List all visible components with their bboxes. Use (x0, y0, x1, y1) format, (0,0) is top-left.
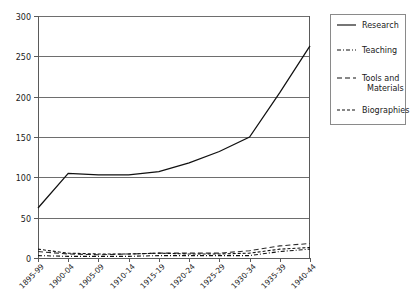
legend: ResearchTeachingTools andMaterialsBiogra… (331, 15, 410, 125)
x-tick-label-2: 1905-09 (77, 262, 106, 291)
y-tick-label-150: 150 (16, 134, 31, 143)
y-tick-label-100: 100 (16, 174, 31, 183)
x-axis-ticks: 1895-991900-041905-091910-141915-191920-… (17, 258, 318, 291)
legend-label-biographies: Biographies (362, 106, 409, 115)
y-tick-label-300: 300 (16, 13, 31, 22)
x-tick-label-6: 1925-29 (198, 262, 227, 291)
x-tick-label-0: 1895-99 (17, 262, 46, 291)
y-tick-label-200: 200 (16, 94, 31, 103)
x-tick-label-3: 1910-14 (108, 262, 137, 291)
x-tick-label-1: 1900-04 (47, 262, 76, 291)
legend-label-tools-and-materials-line2: Materials (367, 84, 404, 93)
legend-label-research: Research (362, 21, 399, 30)
x-tick-label-5: 1920-24 (168, 262, 197, 291)
y-axis-ticks: 050100150200250300 (16, 13, 38, 264)
line-chart: 050100150200250300 1895-991900-041905-09… (0, 0, 414, 305)
legend-label-teaching: Teaching (361, 46, 397, 55)
chart-canvas: 050100150200250300 1895-991900-041905-09… (0, 0, 414, 305)
legend-label-tools-and-materials: Tools and (361, 74, 399, 83)
x-tick-label-8: 1935-39 (259, 262, 288, 291)
y-tick-label-50: 50 (21, 215, 31, 224)
y-tick-label-0: 0 (26, 255, 31, 264)
y-tick-label-250: 250 (16, 53, 31, 62)
x-tick-label-9: 1940-44 (289, 262, 318, 291)
x-tick-label-7: 1930-34 (229, 262, 258, 291)
x-tick-label-4: 1915-19 (138, 262, 167, 291)
